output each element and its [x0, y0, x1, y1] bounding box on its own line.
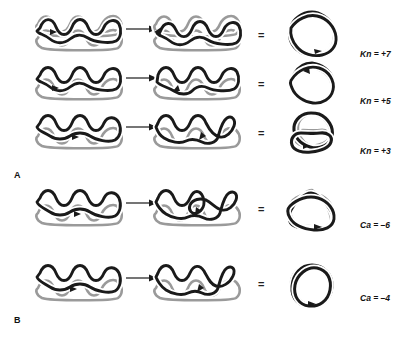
- substrate-diagram-ca4: [30, 257, 130, 303]
- catenane-label-ca6: Ca = –6: [360, 220, 390, 230]
- equals-sign-kn7: =: [258, 30, 264, 41]
- catenane-label-ca4: Ca = –4: [360, 293, 390, 303]
- substrate-diagram-kn5: [30, 57, 130, 103]
- catenane-diagram-ca4: [281, 257, 343, 311]
- figure-canvas: A B: [0, 0, 413, 341]
- substrate-diagram-kn3: [30, 106, 130, 152]
- equals-sign-ca6: =: [258, 204, 264, 215]
- substrate-diagram-ca6: [30, 182, 130, 228]
- recombined-diagram-ca6: [148, 182, 252, 228]
- recombined-diagram-ca4: [148, 257, 252, 303]
- equals-sign-ca4: =: [258, 279, 264, 290]
- panel-label-b: B: [14, 315, 21, 325]
- catenane-diagram-ca6: [281, 182, 343, 236]
- knot-diagram-kn5: [281, 57, 343, 109]
- panel-label-a: A: [14, 170, 21, 180]
- equals-sign-kn3: =: [258, 128, 264, 139]
- substrate-diagram-kn7: [30, 8, 130, 54]
- recombined-diagram-kn3: [148, 106, 252, 152]
- recombined-diagram-kn7: [148, 8, 252, 54]
- knot-label-kn7: Kn = +7: [360, 49, 391, 59]
- knot-diagram-kn3: [281, 106, 343, 158]
- equals-sign-kn5: =: [258, 79, 264, 90]
- knot-diagram-kn7: [281, 8, 343, 60]
- knot-label-kn3: Kn = +3: [360, 146, 391, 156]
- knot-label-kn5: Kn = +5: [360, 96, 391, 106]
- recombined-diagram-kn5: [148, 57, 252, 103]
